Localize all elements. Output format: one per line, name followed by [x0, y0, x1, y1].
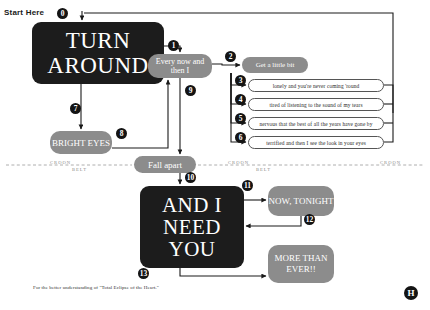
step-badge-8: 8: [116, 128, 127, 139]
lyric-pill[interactable]: terrified and then I see the look in you…: [248, 136, 384, 149]
caption: For the better understanding of "Total E…: [33, 285, 159, 290]
step-badge-11: 11: [242, 180, 253, 191]
node-turn-around[interactable]: TURN AROUND: [32, 22, 164, 84]
step-badge-10: 10: [185, 172, 196, 183]
node-now-tonight[interactable]: NOW, TONIGHT: [268, 186, 334, 216]
step-badge-9: 9: [185, 85, 196, 96]
node-get-a-little-bit[interactable]: Get a little bit: [242, 57, 308, 73]
start-here-label: Start Here: [4, 8, 44, 17]
lyric-pill[interactable]: lonely and you're never coming 'round: [248, 79, 384, 92]
register-label-croon: CROON: [228, 160, 249, 165]
step-badge-6: 6: [235, 132, 246, 143]
node-and-i-need-you[interactable]: AND I NEED YOU: [140, 186, 244, 268]
register-label-croon: CROON: [380, 160, 401, 165]
node-more-than-ever[interactable]: MORE THAN EVER!!: [268, 245, 334, 283]
publisher-logo-icon: H: [404, 286, 418, 300]
register-label-belt: BELT: [72, 167, 87, 172]
node-every-now-and-then[interactable]: Every now and then I: [148, 54, 212, 78]
lyric-pill[interactable]: nervous that the best of all the years h…: [248, 117, 384, 130]
step-badge-2: 2: [225, 51, 236, 62]
node-bright-eyes[interactable]: BRIGHT EYES: [50, 131, 112, 154]
register-label-croon: CROON: [50, 160, 71, 165]
node-fall-apart[interactable]: Fall apart: [134, 156, 196, 173]
lyric-pill[interactable]: tired of listening to the sound of my te…: [248, 98, 384, 111]
step-badge-1: 1: [168, 40, 179, 51]
step-badge-4: 4: [235, 94, 246, 105]
step-badge-5: 5: [235, 113, 246, 124]
step-badge-12: 12: [304, 214, 315, 225]
step-badge-3: 3: [235, 75, 246, 86]
register-label-belt: BELT: [256, 167, 271, 172]
step-badge-7: 7: [70, 103, 81, 114]
step-badge-0: 0: [57, 8, 68, 19]
step-badge-13: 13: [138, 268, 149, 279]
